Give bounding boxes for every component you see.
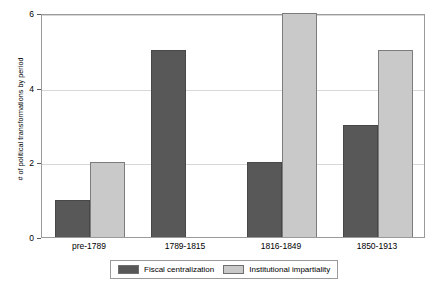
bar [55, 200, 90, 237]
legend-swatch [223, 265, 244, 274]
gridline [42, 90, 424, 91]
gridline [42, 15, 424, 16]
y-axis-title: # of political transformations by period [14, 0, 28, 238]
y-axis-tick-label: 0 [0, 234, 41, 243]
x-axis-tick-label: 1789-1815 [137, 242, 233, 251]
legend-label: Fiscal centralization [144, 265, 214, 274]
x-axis-tick-label: 1816-1849 [233, 242, 329, 251]
bar [151, 50, 186, 237]
bar [343, 125, 378, 237]
y-axis-tick-label: 6 [0, 10, 41, 19]
chart-legend: Fiscal centralizationInstitutional impar… [110, 260, 338, 279]
plot-area [41, 14, 425, 238]
legend-label: Institutional impartiality [249, 265, 330, 274]
x-axis-tick-label: 1850-1913 [329, 242, 425, 251]
legend-swatch [118, 265, 139, 274]
bar [378, 50, 413, 237]
legend-entry: Fiscal centralization [118, 265, 214, 274]
y-axis-tick-label: 2 [0, 159, 41, 168]
bar [282, 13, 317, 237]
y-axis-tick-label: 4 [0, 85, 41, 94]
bar [247, 162, 282, 237]
bar-chart-figure: # of political transformations by period… [0, 0, 438, 285]
bar [90, 162, 125, 237]
x-axis-tick-label: pre-1789 [41, 242, 137, 251]
legend-entry: Institutional impartiality [223, 265, 330, 274]
